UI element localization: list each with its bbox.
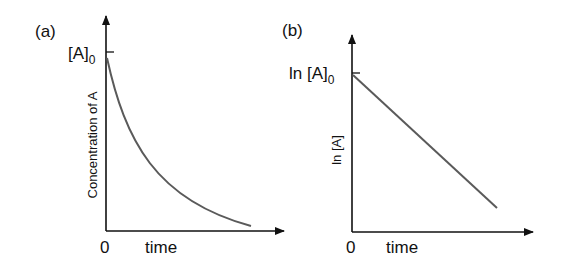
decay-curve — [107, 58, 251, 226]
y-tick-label-a: [A]0 — [68, 44, 96, 67]
figure: (a) [A]0 Concentration of A 0 time (b) l… — [0, 0, 563, 269]
y-axis-label-b: ln [A] — [329, 135, 344, 165]
x-axis-label-a: time — [145, 238, 177, 257]
x-tick-label-b: 0 — [346, 238, 355, 257]
chart-svg: (a) [A]0 Concentration of A 0 time (b) l… — [0, 0, 563, 269]
x-tick-label-a: 0 — [100, 238, 109, 257]
panel-b: (b) ln [A]0 ln [A] 0 time — [282, 21, 533, 257]
y-tick-label-b: ln [A]0 — [289, 64, 335, 87]
panel-label-b: (b) — [282, 21, 303, 40]
y-axis-label-a: Concentration of A — [85, 91, 100, 198]
linear-line — [353, 75, 497, 208]
panel-a: (a) [A]0 Concentration of A 0 time — [35, 16, 284, 257]
x-axis-label-b: time — [386, 238, 418, 257]
panel-label-a: (a) — [35, 22, 56, 41]
